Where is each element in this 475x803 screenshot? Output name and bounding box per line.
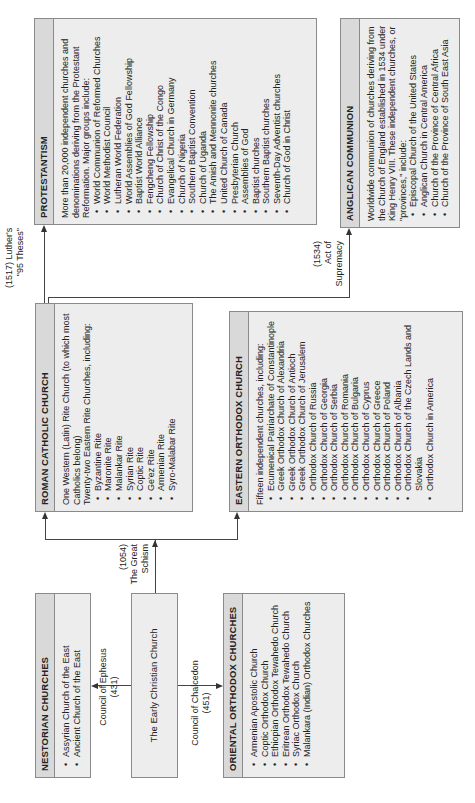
great-schism-label: (1054) The Great Schism <box>118 544 151 589</box>
list-item: Southern Baptist Convention <box>187 25 198 218</box>
anglican-list: Episcopal Church of the United States An… <box>408 25 450 221</box>
list-item: Assemblies of God <box>240 25 251 218</box>
list-item: Orthodox Church of Russia <box>308 318 319 505</box>
eastern-orthodox-title: EASTERN ORTHODOX CHURCH <box>230 312 249 511</box>
list-item: Anglican Church in Central America <box>419 25 430 221</box>
list-item: Malankar Rite <box>114 310 125 505</box>
list-item: Orthodox Church of Serbia <box>329 318 340 505</box>
list-item: World Communion of Reformed Churches <box>92 25 103 218</box>
list-item: Greek Orthodox Church of Jerusalem <box>297 318 308 505</box>
supremacy-label: (1534) Act of Supremacy <box>312 241 345 291</box>
supremacy-connector-vertical <box>48 297 349 298</box>
eastern-orthodox-intro: Fifteen independent churches, including: <box>255 318 266 505</box>
list-item: Syro-Malabar Rite <box>167 310 178 505</box>
schism-connector-line <box>155 540 156 593</box>
nestorian-title: NESTORIAN CHURCHES <box>36 594 55 777</box>
list-item: Orthodox Church of the Czech Lands and S… <box>403 318 424 505</box>
list-item: Maronite Rite <box>103 310 114 505</box>
list-item: Church of the Province of Central Africa <box>430 25 441 221</box>
oriental-orthodox-box: ORIENTAL ORTHODOX CHURCHES Armenian Apos… <box>223 593 345 778</box>
list-item: Church of Uganda <box>198 25 209 218</box>
list-item: Armenian Rite <box>156 310 167 505</box>
list-item: Byzantine Rite <box>93 310 104 505</box>
list-item: Syrian Rite <box>125 310 136 505</box>
list-item: Ancient Church of the East <box>72 600 83 771</box>
list-item: Orthodox Church of Greece <box>372 318 383 505</box>
list-item: Presbyterian Church <box>230 25 241 218</box>
to-roman-catholic-line <box>45 519 46 540</box>
list-item: Syriac Orthodox Church <box>291 600 302 771</box>
list-item: Eritrean Orthodox Tewahedo Church <box>281 600 292 771</box>
list-item: Ge'ez Rite <box>146 310 157 505</box>
arrow-to-eastern-orthodox-icon <box>234 512 240 519</box>
anglican-communion-box: ANGLICAN COMMUNION Worldwide communion o… <box>340 18 460 228</box>
arrow-to-nestorian-icon <box>91 683 98 689</box>
list-item: Armenian Apostolic Church <box>249 600 260 771</box>
list-item: Orthodox Church of Albania <box>393 318 404 505</box>
arrow-to-protestantism-icon <box>41 225 47 232</box>
luther-label: (1517) Luther's "95 Theses" <box>4 228 26 288</box>
eastern-orthodox-box: EASTERN ORTHODOX CHURCH Fifteen independ… <box>229 311 463 512</box>
list-item: Malankara (Indian) Orthodox Churches <box>302 600 313 771</box>
protestantism-list: World Communion of Reformed Churches Wor… <box>92 25 293 218</box>
early-christian-title: The Early Christian Church <box>132 594 177 777</box>
roman-catholic-intro: One Western (Latin) Rite Church (to whic… <box>61 310 82 505</box>
chalcedon-label: Council of Chalcedon (451) <box>190 643 212 763</box>
list-item: Assyrian Church of the East <box>61 600 72 771</box>
arrow-to-anglican-icon <box>346 228 352 235</box>
supremacy-connector-stub <box>48 298 49 303</box>
list-item: Lutheran World Federation <box>113 25 124 218</box>
list-item: Southern Baptist churches <box>261 25 272 218</box>
list-item: Greek Orthodox Church of Antioch <box>287 318 298 505</box>
oriental-orthodox-list: Armenian Apostolic Church Coptic Orthodo… <box>249 600 313 771</box>
list-item: United Church of Canada <box>219 25 230 218</box>
list-item: Episcopal Church of the United States <box>408 25 419 221</box>
anglican-title: ANGLICAN COMMUNION <box>341 19 360 227</box>
list-item: The Amish and Mennonite churches <box>208 25 219 218</box>
early-christian-church-box: The Early Christian Church <box>131 593 178 778</box>
list-item: Baptist churches <box>251 25 262 218</box>
luther-connector-line <box>44 232 45 303</box>
list-item: Orthodox Church of Georgia <box>319 318 330 505</box>
list-item: Ethiopian Orthodox Tewahedo Church <box>270 600 281 771</box>
list-item: Greek Orthodox Church of Alexandria <box>276 318 287 505</box>
protestantism-title: PROTESTANTISM <box>35 19 54 224</box>
ephesus-label: Council of Ephesus (431) <box>98 627 120 747</box>
church-family-tree-diagram: PROTESTANTISM More than 20,000 independe… <box>0 0 475 803</box>
schism-split-line <box>45 539 237 540</box>
list-item: Coptic Orthodox Church <box>260 600 271 771</box>
list-item: Orthodox Church of Romania <box>340 318 351 505</box>
list-item: Baptist World Alliance <box>134 25 145 218</box>
roman-catholic-box: ROMAN CATHOLIC CHURCH One Western (Latin… <box>35 303 193 512</box>
list-item: Coptic Rite <box>135 310 146 505</box>
list-item: Seventh-Day Adventist churches <box>272 25 283 218</box>
arrow-to-oriental-icon <box>216 683 223 689</box>
list-item: World Assemblies of God Fellowship <box>124 25 135 218</box>
to-eastern-orthodox-line <box>237 519 238 540</box>
list-item: Church of God in Christ <box>282 25 293 218</box>
arrow-schism-icon <box>152 540 158 547</box>
arrow-to-roman-catholic-icon <box>42 512 48 519</box>
oriental-orthodox-title: ORIENTAL ORTHODOX CHURCHES <box>224 594 243 777</box>
nestorian-churches-box: NESTORIAN CHURCHES Assyrian Church of th… <box>35 593 91 778</box>
list-item: Church of Christ of the Congo <box>155 25 166 218</box>
list-item: Church of Nigeria <box>177 25 188 218</box>
protestantism-intro: More than 20,000 independent churches an… <box>60 25 92 218</box>
list-item: Orthodox Church of Bulgaria <box>350 318 361 505</box>
list-item: Orthodox Church in America <box>425 318 436 505</box>
roman-catholic-intro-2: Twenty-two Eastern Rite Churches, includ… <box>82 310 93 505</box>
list-item: Orthodox Church of Poland <box>382 318 393 505</box>
list-item: Orthodox Church of Cyprus <box>361 318 372 505</box>
list-item: Fengcheng Fellowship <box>145 25 156 218</box>
list-item: Evangelical Church in Germany <box>166 25 177 218</box>
roman-catholic-title: ROMAN CATHOLIC CHURCH <box>36 304 55 511</box>
nestorian-list: Assyrian Church of the East Ancient Chur… <box>61 600 82 771</box>
anglican-intro: Worldwide communion of churches deriving… <box>366 25 408 221</box>
roman-catholic-list: Byzantine Rite Maronite Rite Malankar Ri… <box>93 310 178 505</box>
list-item: World Methodist Council <box>102 25 113 218</box>
list-item: Church of the Province of South East Asi… <box>440 25 451 221</box>
supremacy-connector-horizontal <box>349 235 350 298</box>
list-item: Ecumenical Patriarchate of Constantinopl… <box>266 318 277 505</box>
eastern-orthodox-list: Ecumenical Patriarchate of Constantinopl… <box>266 318 436 505</box>
protestantism-box: PROTESTANTISM More than 20,000 independe… <box>34 18 317 225</box>
